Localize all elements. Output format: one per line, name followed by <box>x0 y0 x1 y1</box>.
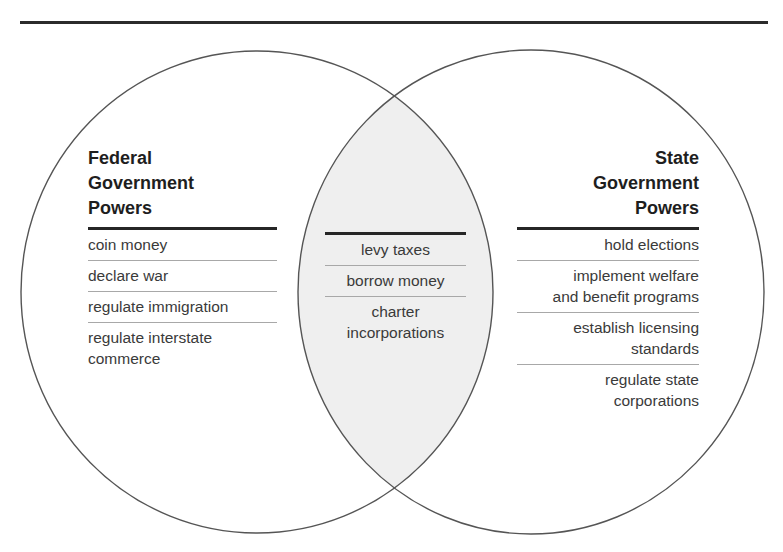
list-item: regulate interstate commerce <box>88 323 277 374</box>
list-item: declare war <box>88 261 277 292</box>
item-text: and benefit programs <box>517 286 699 307</box>
list-item: borrow money <box>325 266 466 297</box>
state-heading: State Government Powers <box>517 146 699 221</box>
item-text: regulate immigration <box>88 296 277 317</box>
list-item: hold elections <box>517 230 699 261</box>
item-text: charter <box>325 301 466 322</box>
list-item: regulate immigration <box>88 292 277 323</box>
list-item: establish licensing standards <box>517 313 699 365</box>
heading-line: Powers <box>517 196 699 221</box>
item-text: standards <box>517 338 699 359</box>
item-text: incorporations <box>325 322 466 343</box>
item-text: regulate interstate <box>88 327 277 348</box>
item-text: implement welfare <box>517 265 699 286</box>
list-item: implement welfare and benefit programs <box>517 261 699 313</box>
item-text: coin money <box>88 234 277 255</box>
state-powers-column: State Government Powers hold elections i… <box>517 146 699 416</box>
item-text: regulate state <box>517 369 699 390</box>
shared-powers-column: levy taxes borrow money charter incorpor… <box>325 232 466 348</box>
item-text: establish licensing <box>517 317 699 338</box>
item-text: declare war <box>88 265 277 286</box>
list-item: coin money <box>88 230 277 261</box>
item-text: hold elections <box>517 234 699 255</box>
heading-line: Powers <box>88 196 277 221</box>
list-item: charter incorporations <box>325 297 466 348</box>
heading-line: Government <box>517 171 699 196</box>
heading-line: State <box>517 146 699 171</box>
heading-line: Government <box>88 171 277 196</box>
item-text: borrow money <box>325 270 466 291</box>
heading-line: Federal <box>88 146 277 171</box>
list-item: levy taxes <box>325 235 466 266</box>
item-text: corporations <box>517 390 699 411</box>
item-text: commerce <box>88 348 277 369</box>
federal-heading: Federal Government Powers <box>88 146 277 221</box>
list-item: regulate state corporations <box>517 365 699 416</box>
federal-powers-column: Federal Government Powers coin money dec… <box>88 146 277 374</box>
item-text: levy taxes <box>325 239 466 260</box>
